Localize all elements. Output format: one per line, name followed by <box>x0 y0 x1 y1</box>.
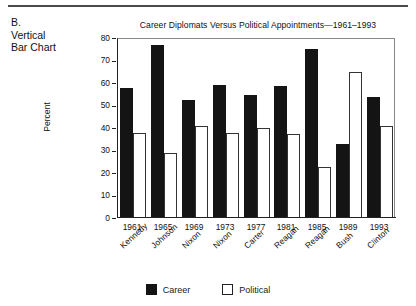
bar-political[interactable] <box>195 126 208 218</box>
bar-group <box>336 39 362 218</box>
bar-political[interactable] <box>257 128 270 218</box>
y-axis-tick-mark <box>112 128 116 129</box>
bar-political[interactable] <box>226 133 239 219</box>
chart-plot: Percent 01020304050607080 1961Kennedy196… <box>0 0 416 306</box>
bar-political[interactable] <box>318 167 331 218</box>
bar-political[interactable] <box>133 133 146 219</box>
bar-career[interactable] <box>336 144 349 218</box>
y-axis-tick-mark <box>112 38 116 39</box>
y-axis-tick-mark <box>112 173 116 174</box>
bar-group <box>182 39 208 218</box>
bar-career[interactable] <box>182 100 195 218</box>
bar-career[interactable] <box>213 85 226 218</box>
chart-legend: Career Political <box>0 284 416 295</box>
plot-area <box>117 38 395 218</box>
y-axis-tick-label: 0 <box>88 213 110 223</box>
legend-swatch-career <box>146 284 157 295</box>
y-axis-tick-mark <box>112 106 116 107</box>
y-axis-tick-mark <box>112 61 116 62</box>
bar-political[interactable] <box>349 72 362 218</box>
bar-group <box>274 39 300 218</box>
bar-career[interactable] <box>305 49 318 218</box>
y-axis-tick-label: 60 <box>88 78 110 88</box>
y-axis-label: Percent <box>42 62 52 172</box>
legend-swatch-political <box>222 284 233 295</box>
y-axis-tick-mark <box>112 151 116 152</box>
legend-item-career: Career <box>146 284 191 295</box>
bar-political[interactable] <box>164 153 177 218</box>
bar-career[interactable] <box>244 95 257 218</box>
x-axis-president-label: Bush <box>334 230 355 250</box>
bar-political[interactable] <box>287 134 300 218</box>
bar-group <box>151 39 177 218</box>
y-axis-tick-label: 10 <box>88 190 110 200</box>
y-axis-tick-label: 50 <box>88 100 110 110</box>
y-axis-tick-label: 80 <box>88 33 110 43</box>
y-axis-tick-mark <box>112 83 116 84</box>
bar-group <box>305 39 331 218</box>
bar-career[interactable] <box>367 97 380 219</box>
y-axis-tick-mark <box>112 196 116 197</box>
y-axis-tick-label: 30 <box>88 145 110 155</box>
bar-group <box>367 39 393 218</box>
legend-item-political: Political <box>222 284 270 295</box>
legend-label-career: Career <box>163 285 191 295</box>
bar-group <box>213 39 239 218</box>
y-axis-tick-label: 20 <box>88 168 110 178</box>
bar-group <box>244 39 270 218</box>
y-axis-tick-label: 40 <box>88 123 110 133</box>
bar-career[interactable] <box>120 88 133 219</box>
bar-career[interactable] <box>151 45 164 218</box>
bar-groups <box>118 39 394 218</box>
legend-label-political: Political <box>239 285 270 295</box>
y-axis-tick-mark <box>112 218 116 219</box>
x-axis-line <box>117 217 396 218</box>
y-axis-tick-label: 70 <box>88 55 110 65</box>
bar-career[interactable] <box>274 86 287 218</box>
bar-political[interactable] <box>380 126 393 218</box>
bar-group <box>120 39 146 218</box>
